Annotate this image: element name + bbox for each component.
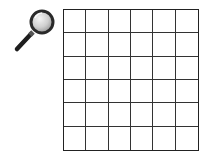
grid-cell-r4-c1[interactable] xyxy=(64,80,86,103)
grid-cell-r6-c3[interactable] xyxy=(109,127,131,150)
grid-cell-r4-c6[interactable] xyxy=(176,80,198,103)
grid-cell-r4-c5[interactable] xyxy=(153,80,175,103)
grid-cell-r1-c2[interactable] xyxy=(86,10,108,33)
grid-cell-r5-c3[interactable] xyxy=(109,103,131,126)
grid-cell-r6-c4[interactable] xyxy=(131,127,153,150)
grid-cell-r5-c5[interactable] xyxy=(153,103,175,126)
grid-cell-r3-c2[interactable] xyxy=(86,57,108,80)
grid-cell-r2-c3[interactable] xyxy=(109,33,131,56)
grid-cell-r3-c5[interactable] xyxy=(153,57,175,80)
grid-cell-r2-c6[interactable] xyxy=(176,33,198,56)
grid-cell-r5-c6[interactable] xyxy=(176,103,198,126)
grid-cell-r5-c1[interactable] xyxy=(64,103,86,126)
grid-cell-r2-c4[interactable] xyxy=(131,33,153,56)
grid-cell-r5-c4[interactable] xyxy=(131,103,153,126)
grid-cell-r6-c5[interactable] xyxy=(153,127,175,150)
grid-cell-r1-c1[interactable] xyxy=(64,10,86,33)
grid-cell-r2-c2[interactable] xyxy=(86,33,108,56)
grid-cell-r2-c5[interactable] xyxy=(153,33,175,56)
grid-cell-r1-c4[interactable] xyxy=(131,10,153,33)
grid-cell-r3-c1[interactable] xyxy=(64,57,86,80)
magnifying-glass-icon[interactable] xyxy=(12,6,60,54)
grid-cell-r1-c5[interactable] xyxy=(153,10,175,33)
grid-cell-r4-c4[interactable] xyxy=(131,80,153,103)
grid-board xyxy=(63,9,199,151)
grid-cell-r3-c6[interactable] xyxy=(176,57,198,80)
grid-cell-r1-c3[interactable] xyxy=(109,10,131,33)
grid-cell-r6-c1[interactable] xyxy=(64,127,86,150)
grid-cell-r4-c2[interactable] xyxy=(86,80,108,103)
grid-cell-r3-c3[interactable] xyxy=(109,57,131,80)
grid-cell-r4-c3[interactable] xyxy=(109,80,131,103)
grid-cell-r5-c2[interactable] xyxy=(86,103,108,126)
grid-cell-r1-c6[interactable] xyxy=(176,10,198,33)
grid-cell-r3-c4[interactable] xyxy=(131,57,153,80)
grid-cell-r6-c6[interactable] xyxy=(176,127,198,150)
grid-cell-r6-c2[interactable] xyxy=(86,127,108,150)
grid-cell-r2-c1[interactable] xyxy=(64,33,86,56)
